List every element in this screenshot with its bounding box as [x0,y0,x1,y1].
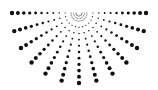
dot [85,17,86,18]
dot [108,20,110,22]
dot [108,44,111,47]
center-arc-dot [82,16,83,17]
dot [144,11,148,15]
dot [94,40,96,42]
dot [87,13,88,14]
dot [36,23,39,26]
dot [100,25,102,27]
dot [90,19,91,20]
dot [24,26,28,30]
dot [60,31,62,33]
dot [78,51,80,53]
dot [91,35,93,37]
center-arc-dot [82,13,83,14]
radial-dot-sunburst-graphic [0,0,158,90]
dot [16,11,20,15]
dot [79,21,80,22]
dot [40,12,42,14]
dot [130,43,134,47]
dot [77,69,81,73]
dot [120,37,123,40]
dot [29,60,33,64]
dot [62,40,64,42]
dot [46,66,50,70]
dot [29,40,33,44]
center-arc-dot [73,14,74,15]
dot [96,31,98,33]
dot [88,22,89,23]
dot [53,56,56,59]
dot [127,11,130,14]
dot [78,33,80,35]
dot [24,43,28,47]
dot [68,30,70,32]
dot [83,32,85,34]
dot [81,20,82,21]
dot [18,28,22,32]
center-arc-dot [84,13,85,14]
dot [77,81,81,85]
dot [90,61,93,64]
dot [100,35,102,37]
center-arc-dot [79,16,80,17]
dot [115,12,117,14]
dot [22,11,26,15]
dot [70,44,72,46]
dot [136,28,140,32]
dot [30,25,33,28]
center-arc-dot [80,18,81,19]
dot [51,28,53,30]
dot [56,35,58,37]
center-arc-dot [73,13,74,14]
dot [47,44,50,47]
dot [65,61,68,64]
dot [63,67,67,71]
center-arc-dot [75,16,76,17]
dot [110,31,112,33]
dot [56,25,58,27]
dot [116,52,120,56]
dot [78,45,80,47]
dot [12,29,16,33]
center-arc-dot [84,14,85,15]
dot [47,20,49,22]
dot [125,25,128,28]
dot [105,61,109,65]
dot [86,44,88,46]
dot [102,56,105,59]
dot [105,28,107,30]
center-arc-dot [76,13,77,14]
dot [93,73,97,77]
dot [99,51,102,54]
dot [92,16,93,17]
dot [86,15,87,16]
dot [73,18,74,19]
center-arc-dot [76,13,77,14]
dot [66,55,69,58]
dot [85,25,86,26]
dot [71,13,72,14]
dot [52,12,54,14]
dot [68,49,70,51]
dot [132,11,136,15]
dot [82,26,83,27]
dot [110,71,114,75]
center-arc-dot [74,15,75,16]
dot [56,51,59,54]
center-arc-dot [83,15,84,16]
dot [104,39,106,41]
center-arc-dot [81,17,82,18]
center-arc-dot [79,18,80,19]
dot [94,78,98,82]
dot [110,12,112,14]
dot [65,16,66,17]
dot [89,55,92,58]
dot [43,71,47,75]
dot [73,32,75,34]
dot [97,46,99,48]
dot [120,56,124,60]
dot [78,39,80,41]
dot [83,19,84,20]
center-arc-dot [77,18,78,19]
dot [75,19,76,20]
